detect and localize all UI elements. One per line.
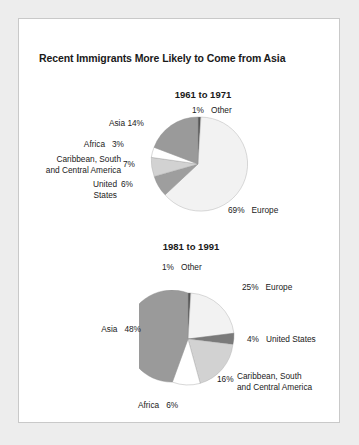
pie-label-asia-pct-1961: 14% — [127, 118, 144, 128]
panel-title-1961-1971: 1961 to 1971 — [148, 89, 258, 100]
pie-label-africa-name-1981: Africa — [138, 400, 159, 410]
pie-label-europe-1961: 69% Europe — [228, 205, 278, 216]
pie-label-us-pct-1981: 4% — [247, 334, 259, 344]
pie-label-caribbean-pct-1961: 7% — [123, 159, 135, 170]
pie-label-caribbean-pct-1981: 16% — [217, 374, 234, 385]
pie-label-caribbean-line2-1981: and Central America — [237, 382, 343, 393]
pie-label-asia-1961: Asia 14% — [59, 118, 144, 129]
pie-chart-1961-1971 — [148, 114, 248, 214]
pie-label-europe-pct-1961: 69% — [228, 205, 245, 215]
pie-label-asia-name-1961: Asia — [109, 118, 125, 128]
pie-label-europe-name-1981: Europe — [266, 282, 293, 292]
pie-label-other-pct-1981: 1% — [162, 262, 174, 272]
pie-label-caribbean-1961: Caribbean, South and Central America — [25, 154, 121, 175]
pie-label-asia-pct-1981: 48% — [124, 324, 141, 334]
pie-label-asia-name-1981: Asia — [101, 324, 117, 334]
pie-label-africa-pct-1961: 3% — [112, 139, 124, 149]
pie-label-us-line2-1961: States — [41, 190, 117, 201]
pie-svg-1961-1971 — [148, 114, 248, 214]
pie-label-europe-1981: 25% Europe — [242, 282, 292, 293]
pie-label-other-name-1961: Other — [211, 105, 232, 115]
pie-label-other-pct-1961: 1% — [192, 105, 204, 116]
pie-label-united-states-1961: United States — [41, 179, 117, 200]
pie-label-other-1981: 1% Other — [162, 262, 202, 273]
panel-title-1981-1991: 1981 to 1991 — [136, 241, 246, 252]
pie-label-other-name-1981: Other — [181, 262, 202, 272]
pie-label-asia-1981: Asia 48% — [59, 324, 141, 335]
pie-label-us-line1-1961: United — [41, 179, 117, 190]
pie-label-caribbean-line2-1961: and Central America — [25, 165, 121, 176]
pie-label-united-states-1981: 4% United States — [247, 334, 316, 345]
pie-label-africa-1981: Africa 6% — [138, 400, 178, 411]
pie-label-europe-pct-1981: 25% — [242, 282, 259, 292]
pie-label-us-name-1981: United States — [266, 334, 316, 344]
pie-label-caribbean-1981: Caribbean, South and Central America — [237, 371, 343, 392]
pie-label-africa-pct-1981: 6% — [166, 400, 178, 410]
pie-label-europe-name-1961: Europe — [252, 205, 279, 215]
pie-label-caribbean-line1-1961: Caribbean, South — [25, 154, 121, 165]
pie-label-us-pct-1961: 6% — [121, 179, 133, 190]
pie-label-africa-name-1961: Africa — [84, 139, 105, 149]
pie-label-africa-1961: Africa 3% — [39, 139, 124, 150]
pie-label-other-1961: 1% Other — [192, 105, 232, 116]
figure-card: Recent Immigrants More Likely to Come fr… — [18, 18, 340, 423]
page-title: Recent Immigrants More Likely to Come fr… — [39, 52, 285, 64]
pie-slice-europe — [188, 293, 234, 339]
pie-label-caribbean-line1-1981: Caribbean, South — [237, 371, 343, 382]
